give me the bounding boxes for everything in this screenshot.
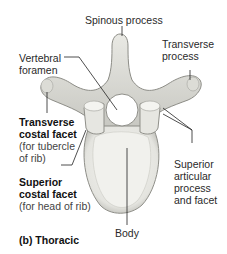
- label-superior-articular-line4: and facet: [174, 194, 217, 206]
- label-vertebral-foramen-line1: Vertebral: [19, 52, 61, 64]
- label-vertebral-foramen-line2: foramen: [19, 64, 58, 76]
- vertebral-foramen: [106, 94, 138, 126]
- label-transverse-costal-facet-note1: (for tubercle: [19, 140, 75, 152]
- label-transverse-process-line1: Transverse: [162, 38, 214, 50]
- label-transverse-process-line2: process: [162, 50, 199, 62]
- label-transverse-costal-facet-line2: costal facet: [19, 128, 77, 140]
- label-superior-costal-facet-line1: Superior: [19, 176, 62, 188]
- label-transverse-costal-facet-line1: Transverse: [19, 116, 74, 128]
- label-superior-articular-line3: process: [174, 182, 211, 194]
- label-body: Body: [115, 227, 139, 239]
- label-spinous-process: Spinous process: [85, 14, 163, 26]
- label-superior-articular-line2: articular: [174, 170, 211, 182]
- label-superior-costal-facet-line2: costal facet: [19, 188, 77, 200]
- vertebral-body: [84, 124, 159, 213]
- label-transverse-costal-facet-note2: of rib): [19, 152, 46, 164]
- label-superior-articular-line1: Superior: [174, 158, 214, 170]
- figure-caption: (b) Thoracic: [19, 234, 79, 246]
- label-superior-costal-facet-note: (for head of rib): [19, 200, 91, 212]
